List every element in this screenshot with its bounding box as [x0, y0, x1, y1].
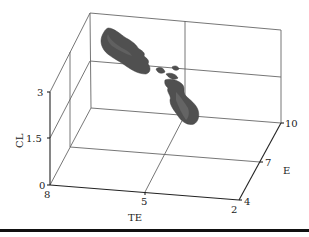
te-tick-5: 5 — [141, 196, 147, 207]
te-tick-2: 2 — [231, 204, 237, 215]
cluster-middle-a — [156, 68, 165, 74]
te-tick-8: 8 — [44, 189, 50, 200]
grid-back-cl-1.5 — [90, 61, 281, 77]
e-tick-10: 10 — [285, 118, 298, 129]
axes — [47, 92, 284, 200]
e-axis-label: E — [283, 165, 290, 176]
cluster-middle-c — [166, 73, 178, 79]
cl-tick-3: 3 — [37, 87, 43, 98]
cluster-middle-b — [172, 66, 179, 70]
plot-box — [50, 13, 281, 192]
grid-floor-e-7 — [70, 147, 260, 162]
e-tick-4: 4 — [244, 196, 250, 207]
cl-axis-label: CL — [14, 133, 25, 148]
3d-scatter-plot: 3 1.5 0 8 5 2 4 7 10 CL TE E — [0, 0, 309, 237]
bottom-rule — [0, 229, 309, 232]
cl-tick-1.5: 1.5 — [26, 133, 42, 144]
e-tick-7: 7 — [265, 157, 271, 168]
te-axis-label: TE — [128, 212, 142, 223]
floor-left-edge — [50, 108, 91, 185]
